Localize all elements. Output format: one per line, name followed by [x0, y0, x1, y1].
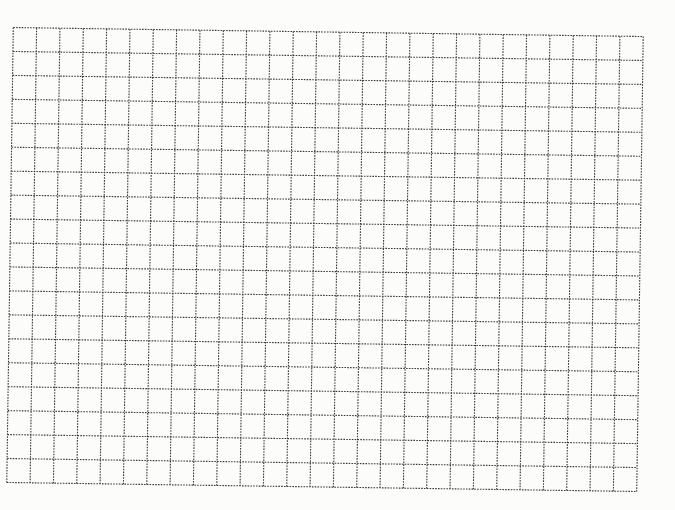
grid-horizontal-line	[13, 51, 643, 60]
grid-horizontal-line	[7, 435, 637, 444]
grid-horizontal-line	[11, 171, 641, 180]
grid-vertical-line	[403, 33, 410, 488]
grid-vertical-line	[613, 36, 620, 491]
grid-vertical-line	[193, 30, 200, 485]
grid-vertical-line	[147, 30, 154, 485]
grid-vertical-line	[77, 29, 84, 484]
grid-horizontal-line	[10, 267, 640, 276]
grid-vertical-line	[123, 29, 130, 484]
grid-horizontal-line	[10, 243, 640, 252]
grid-vertical-line	[497, 35, 504, 490]
scanned-page	[0, 0, 675, 510]
grid-vertical-line	[287, 32, 294, 487]
grid-vertical-line	[520, 35, 527, 490]
grid-vertical-line	[53, 28, 60, 483]
grid-vertical-line	[473, 34, 480, 489]
grid-vertical-line	[450, 34, 457, 489]
grid-vertical-line	[310, 32, 317, 487]
grid-horizontal-line	[11, 219, 641, 228]
grid-vertical-line	[7, 28, 14, 483]
grid-vertical-line	[357, 33, 364, 488]
grid-vertical-line	[380, 33, 387, 488]
grid-horizontal-line	[7, 482, 637, 491]
grid-vertical-line	[637, 37, 644, 492]
grid-vertical-line	[543, 35, 550, 490]
grid-horizontal-line	[8, 363, 638, 372]
grid-vertical-line	[590, 36, 597, 491]
graph-paper-grid	[7, 28, 643, 492]
grid-horizontal-line	[9, 339, 639, 348]
grid-horizontal-line	[8, 387, 638, 396]
grid-horizontal-line	[12, 147, 642, 156]
grid-vertical-line	[100, 29, 107, 484]
grid-vertical-line	[427, 34, 434, 489]
grid-vertical-line	[217, 31, 224, 486]
grid-horizontal-line	[10, 291, 640, 300]
grid-horizontal-line	[11, 195, 641, 204]
grid-vertical-line	[263, 31, 270, 486]
grid-horizontal-line	[13, 28, 643, 37]
dotted-grid-lines	[7, 28, 643, 492]
grid-horizontal-line	[12, 123, 642, 132]
grid-vertical-line	[567, 36, 574, 491]
grid-vertical-line	[333, 32, 340, 487]
grid-vertical-line	[240, 31, 247, 486]
grid-horizontal-line	[8, 411, 638, 420]
grid-vertical-line	[30, 28, 37, 483]
grid-horizontal-line	[12, 99, 642, 108]
grid-horizontal-line	[13, 75, 643, 84]
grid-horizontal-line	[9, 315, 639, 324]
grid-vertical-line	[170, 30, 177, 485]
grid-horizontal-line	[7, 459, 637, 468]
